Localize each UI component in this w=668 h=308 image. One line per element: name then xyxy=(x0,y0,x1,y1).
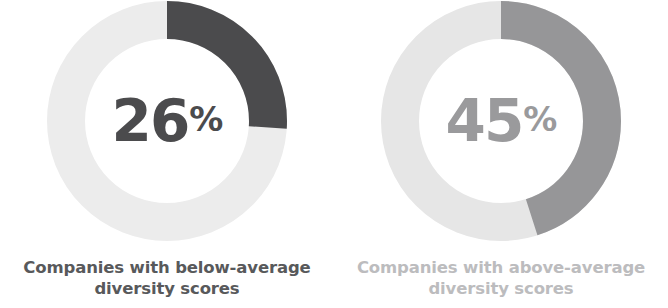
caption-below-average-line1: Companies with below-average xyxy=(7,257,327,278)
donut-svg-below-average xyxy=(47,1,287,241)
donut-chart-above-average: 45% xyxy=(381,1,621,241)
caption-below-average-line2: diversity scores xyxy=(7,278,327,299)
donut-chart-below-average: 26% xyxy=(47,1,287,241)
stat-block-below-average: 26% Companies with below-average diversi… xyxy=(0,0,334,308)
donut-svg-above-average xyxy=(381,1,621,241)
diversity-scores-infographic: 26% Companies with below-average diversi… xyxy=(0,0,668,308)
stat-block-above-average: 45% Companies with above-average diversi… xyxy=(334,0,668,308)
caption-above-average-line1: Companies with above-average xyxy=(341,257,661,278)
caption-above-average-line2: diversity scores xyxy=(341,278,661,299)
caption-above-average: Companies with above-average diversity s… xyxy=(341,257,661,299)
caption-below-average: Companies with below-average diversity s… xyxy=(7,257,327,299)
